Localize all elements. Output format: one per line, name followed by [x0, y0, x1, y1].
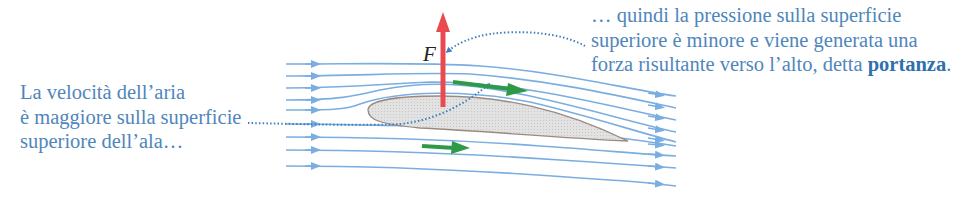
force-label: F	[423, 42, 436, 67]
left-caption-line-1: La velocità dell’aria	[20, 80, 241, 105]
right-caption: … quindi la pressione sulla superficie s…	[591, 3, 951, 77]
right-caption-line-3: forza risultante verso l’alto, detta por…	[591, 52, 951, 77]
left-caption-line-2: è maggiore sulla superficie	[20, 105, 241, 130]
left-caption-line-3: superiore dell’ala…	[20, 129, 241, 154]
left-caption: La velocità dell’aria è maggiore sulla s…	[20, 80, 241, 154]
right-caption-line-3-prefix: forza risultante verso l’alto, detta	[591, 53, 868, 75]
right-caption-line-2: superiore è minore e viene generata una	[591, 28, 951, 53]
lift-term: portanza	[868, 53, 947, 75]
right-leader-line	[448, 32, 585, 51]
lower-velocity-arrow	[422, 141, 470, 154]
airfoil-wing	[368, 96, 628, 141]
right-caption-line-1: … quindi la pressione sulla superficie	[591, 3, 951, 28]
right-caption-line-3-suffix: .	[946, 53, 951, 75]
